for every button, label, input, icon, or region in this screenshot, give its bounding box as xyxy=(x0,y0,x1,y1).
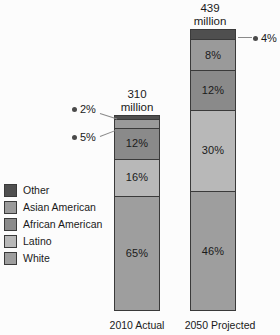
bar2010-segment-white-label: 65% xyxy=(126,248,148,259)
legend-swatch-african-american-icon xyxy=(4,218,17,231)
legend-label-latino: Latino xyxy=(23,235,52,248)
callout-bullet-icon xyxy=(72,107,77,112)
bar2050-stack: 8% 12% 30% 46% xyxy=(190,29,236,311)
bar2050-segment-african-american[interactable]: 12% xyxy=(191,71,235,111)
callout-bullet-icon xyxy=(72,135,77,140)
bar2050-segment-african-american-label: 12% xyxy=(202,85,224,96)
x-axis-caption-2010: 2010 Actual xyxy=(100,319,174,331)
bar2050-total-number: 439 xyxy=(178,2,242,15)
bar2050-segment-latino[interactable]: 30% xyxy=(191,111,235,193)
bar2050-segment-asian-american[interactable]: 8% xyxy=(191,40,235,71)
population-composition-chart: 439 million 310 million 12% 16% 65% xyxy=(0,0,280,335)
bar2050-segment-white-label: 46% xyxy=(202,246,224,257)
x-axis-caption-2050: 2050 Projected xyxy=(176,319,264,331)
bar2050-segment-white[interactable]: 46% xyxy=(191,192,235,310)
legend-item-other[interactable]: Other xyxy=(4,184,102,197)
bar2010-total-label: 310 million xyxy=(105,88,169,114)
callout-2050-other-leader-line xyxy=(238,37,252,38)
callout-bullet-icon xyxy=(253,36,258,41)
callout-2010-other-label: 2% xyxy=(80,103,96,115)
legend-label-asian-american: Asian American xyxy=(23,201,96,214)
bar2010-segment-african-american-label: 12% xyxy=(126,138,148,149)
bar2010-segment-asian-american[interactable] xyxy=(115,120,159,129)
legend: Other Asian American African American La… xyxy=(4,184,102,265)
legend-swatch-asian-american-icon xyxy=(4,201,17,214)
bar-column-2010: 12% 16% 65% xyxy=(114,115,160,311)
bar2050-segment-other[interactable] xyxy=(191,30,235,40)
legend-label-white: White xyxy=(23,252,50,265)
legend-swatch-other-icon xyxy=(4,184,17,197)
callout-2050-other-label: 4% xyxy=(261,32,277,44)
bar2010-stack: 12% 16% 65% xyxy=(114,115,160,311)
legend-swatch-latino-icon xyxy=(4,235,17,248)
bar2010-segment-latino-label: 16% xyxy=(126,172,148,183)
legend-item-latino[interactable]: Latino xyxy=(4,235,102,248)
callout-2010-asian-american-label: 5% xyxy=(80,131,96,143)
bar2050-total-label: 439 million xyxy=(178,2,242,28)
legend-item-white[interactable]: White xyxy=(4,252,102,265)
bar2010-segment-latino[interactable]: 16% xyxy=(115,160,159,197)
bar-column-2050: 8% 12% 30% 46% xyxy=(190,29,236,311)
callout-2010-other: 2% xyxy=(72,103,96,115)
legend-label-other: Other xyxy=(23,184,49,197)
bar2010-segment-african-american[interactable]: 12% xyxy=(115,129,159,160)
bar2050-segment-asian-american-label: 8% xyxy=(205,50,221,61)
callout-2010-asian-american: 5% xyxy=(72,131,96,143)
bar2010-total-number: 310 xyxy=(105,88,169,101)
callout-2050-other: 4% xyxy=(253,32,277,44)
bar2050-total-unit: million xyxy=(178,15,242,28)
legend-item-african-american[interactable]: African American xyxy=(4,218,102,231)
legend-item-asian-american[interactable]: Asian American xyxy=(4,201,102,214)
bar2010-segment-white[interactable]: 65% xyxy=(115,197,159,310)
legend-swatch-white-icon xyxy=(4,252,17,265)
legend-label-african-american: African American xyxy=(23,218,102,231)
bar2010-total-unit: million xyxy=(105,101,169,114)
bar2050-segment-latino-label: 30% xyxy=(202,145,224,156)
